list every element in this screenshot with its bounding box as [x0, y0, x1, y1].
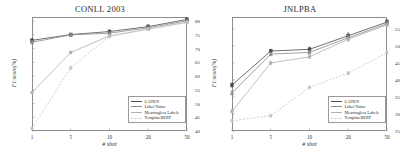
legend-swatch-1	[331, 101, 342, 102]
legend-swatch-3	[331, 112, 342, 113]
y-tick-label: 40	[371, 77, 400, 82]
y-tick-label: 50	[371, 43, 400, 48]
figure-two-panel-line-charts: CONLL 2003 40455055606570758015102050 F1…	[0, 0, 400, 164]
legend-label: TemplateBERT	[145, 115, 172, 121]
data-point-marker	[308, 55, 311, 58]
chart-panel-conll2003: CONLL 2003 40455055606570758015102050 F1…	[0, 0, 200, 164]
legend-swatch-1	[131, 101, 142, 102]
y-tick-label: 80	[171, 19, 200, 24]
x-tick-label: 10	[307, 134, 312, 140]
data-point-marker	[231, 84, 234, 87]
x-tick-label: 20	[146, 134, 151, 140]
series-line	[30, 19, 188, 44]
y-axis-label-conll2003: F1-score(%)	[11, 49, 17, 97]
legend-swatch-2	[131, 106, 142, 107]
x-tick-label: 1	[31, 134, 34, 140]
data-point-marker	[31, 91, 34, 94]
y-tick-label: 65	[171, 60, 200, 65]
data-point-marker	[69, 51, 72, 54]
y-tick-label: 55	[171, 87, 200, 92]
x-tick-label: 5	[69, 134, 72, 140]
legend-label: TemplateBERT	[345, 115, 372, 121]
x-axis-label-conll2003: # shot	[32, 141, 187, 147]
legend-swatch-3	[131, 112, 142, 113]
x-tick-label: 5	[269, 134, 272, 140]
y-tick-label: 60	[171, 74, 200, 79]
x-tick-label: 1	[231, 134, 234, 140]
legend-item[interactable]: TemplateBERT	[331, 115, 383, 121]
data-point-marker	[231, 110, 234, 113]
legend-conll2003: LADENLabel NameMeaningless LabelsTemplat…	[128, 96, 186, 123]
y-axis-label-jnlpba: F1-score(%)	[211, 49, 217, 97]
x-tick-label: 20	[346, 134, 351, 140]
legend-item[interactable]: TemplateBERT	[131, 115, 183, 121]
x-tick-label: 50	[184, 134, 189, 140]
chart-panel-jnlpba: JNLPBA 2530354045505515102050 F1-score(%…	[200, 0, 400, 164]
legend-swatch-4	[331, 118, 342, 119]
x-tick-label: 10	[107, 134, 112, 140]
y-tick-label: 75	[171, 32, 200, 37]
y-tick-label: 45	[371, 60, 400, 65]
x-axis-label-jnlpba: # shot	[232, 141, 387, 147]
data-point-marker	[269, 61, 272, 64]
y-tick-label: 70	[171, 46, 200, 51]
legend-jnlpba: LADENLabel NameMeaningless LabelsTemplat…	[328, 96, 386, 123]
y-tick-label: 55	[371, 26, 400, 31]
legend-swatch-4	[131, 118, 142, 119]
x-tick-label: 50	[384, 134, 389, 140]
legend-swatch-2	[331, 106, 342, 107]
data-point-marker	[347, 38, 350, 41]
